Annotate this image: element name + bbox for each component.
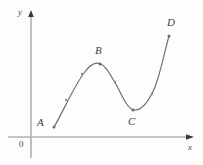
point-label-c: C	[128, 116, 135, 127]
point-dot-a	[53, 126, 56, 129]
point-dot-c	[132, 109, 135, 112]
curve-marker-1	[65, 99, 67, 101]
x-axis	[8, 134, 194, 139]
y-axis-arrowhead	[28, 10, 34, 17]
x-axis-arrowhead	[186, 134, 194, 139]
curve-marker-4	[151, 93, 153, 95]
function-curve	[54, 36, 169, 127]
point-label-b: B	[95, 45, 102, 56]
graph-figure: y x 0 A B C D	[0, 0, 203, 165]
curve-marker-3	[114, 81, 116, 83]
y-axis	[28, 10, 34, 158]
curve-marker-2	[81, 73, 83, 75]
y-axis-label: y	[18, 8, 22, 17]
origin-label: 0	[19, 140, 24, 149]
point-dot-b	[99, 63, 102, 66]
curve-markers	[65, 73, 153, 101]
labeled-point-dots	[53, 35, 171, 129]
x-axis-label: x	[188, 143, 192, 152]
point-label-a: A	[37, 117, 44, 128]
point-label-d: D	[167, 17, 175, 28]
point-dot-d	[168, 35, 171, 38]
